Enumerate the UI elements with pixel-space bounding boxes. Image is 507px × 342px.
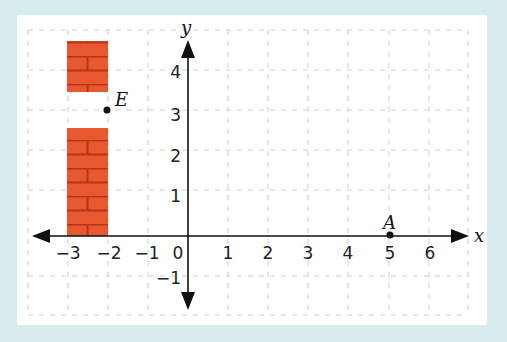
svg-text:2: 2 [263, 243, 274, 263]
svg-text:3: 3 [303, 243, 314, 263]
svg-text:0: 0 [173, 243, 184, 263]
brick-wall-bottom [67, 128, 108, 236]
arrow-right-icon [451, 229, 469, 243]
svg-text:1: 1 [170, 186, 181, 206]
point-a-label: A [381, 212, 396, 233]
svg-text:−2: −2 [96, 243, 121, 263]
svg-text:5: 5 [385, 243, 396, 263]
svg-text:3: 3 [170, 105, 181, 125]
svg-text:1: 1 [223, 243, 234, 263]
arrow-down-icon [181, 292, 195, 310]
svg-text:4: 4 [170, 62, 181, 82]
svg-text:6: 6 [425, 243, 436, 263]
svg-text:−3: −3 [55, 243, 80, 263]
y-axis [181, 40, 195, 310]
coordinate-plane: x y −3 −2 −1 0 1 2 3 4 5 6 4 3 2 1 −1 E … [0, 0, 507, 342]
point-e [104, 107, 111, 114]
x-axis-label: x [474, 225, 484, 246]
svg-text:−1: −1 [134, 243, 159, 263]
svg-text:2: 2 [170, 146, 181, 166]
point-e-label: E [114, 89, 128, 110]
svg-text:4: 4 [343, 243, 354, 263]
y-axis-label: y [180, 17, 192, 38]
arrow-left-icon [32, 229, 50, 243]
arrow-up-icon [181, 40, 195, 58]
svg-text:−1: −1 [156, 268, 181, 288]
brick-wall-top [67, 41, 108, 92]
x-tick-labels: −3 −2 −1 0 1 2 3 4 5 6 [55, 243, 435, 263]
